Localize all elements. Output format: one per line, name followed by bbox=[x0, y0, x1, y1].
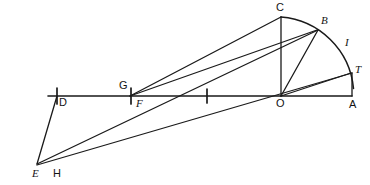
segment-E-D bbox=[37, 96, 57, 164]
point-label-D: D bbox=[59, 97, 67, 108]
point-label-G: G bbox=[119, 80, 128, 91]
point-label-I: I bbox=[345, 37, 349, 48]
point-label-B: B bbox=[321, 15, 328, 26]
point-label-O: O bbox=[276, 98, 285, 109]
point-label-F: F bbox=[136, 98, 143, 109]
point-label-E: E bbox=[32, 168, 39, 179]
figure-canvas bbox=[0, 0, 370, 185]
point-label-H: H bbox=[53, 168, 61, 179]
point-label-T: T bbox=[355, 64, 361, 75]
geometric-figure: A B C D E F G H I O T bbox=[0, 0, 370, 185]
segment-F-B bbox=[130, 30, 317, 96]
segment-E-T bbox=[37, 73, 352, 165]
point-label-C: C bbox=[276, 2, 284, 13]
point-label-A: A bbox=[349, 99, 356, 110]
